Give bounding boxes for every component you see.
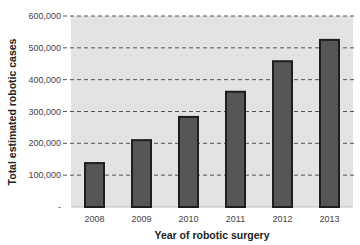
y-tick-label: 300,000 xyxy=(28,107,61,117)
bar-chart: -100,000200,000300,000400,000500,000600,… xyxy=(0,0,360,245)
y-axis-title: Total estimated robotic cases xyxy=(6,38,18,185)
bar-2010 xyxy=(179,117,198,207)
x-tick-label: 2009 xyxy=(131,214,151,224)
x-tick-label: 2011 xyxy=(226,214,245,224)
bar-2008 xyxy=(85,163,104,207)
bar-2011 xyxy=(226,92,245,207)
x-tick-label: 2008 xyxy=(84,214,104,224)
y-tick-label: 500,000 xyxy=(28,43,61,53)
bar-2013 xyxy=(320,40,339,207)
y-axis-tick-labels: -100,000200,000300,000400,000500,000600,… xyxy=(28,11,61,212)
bar-2009 xyxy=(132,140,151,207)
y-tick-label: 600,000 xyxy=(28,11,61,21)
x-tick-label: 2013 xyxy=(319,214,339,224)
x-tick-label: 2010 xyxy=(178,214,198,224)
y-tick-label: 200,000 xyxy=(28,138,61,148)
x-axis-tick-labels: 200820092010201120122013 xyxy=(84,214,339,224)
y-tick-label: 400,000 xyxy=(28,75,61,85)
x-tick-label: 2012 xyxy=(272,214,292,224)
x-axis-title: Year of robotic surgery xyxy=(155,229,270,241)
bar-2012 xyxy=(273,61,292,207)
y-tick-label: - xyxy=(58,202,61,212)
y-tick-label: 100,000 xyxy=(28,170,61,180)
